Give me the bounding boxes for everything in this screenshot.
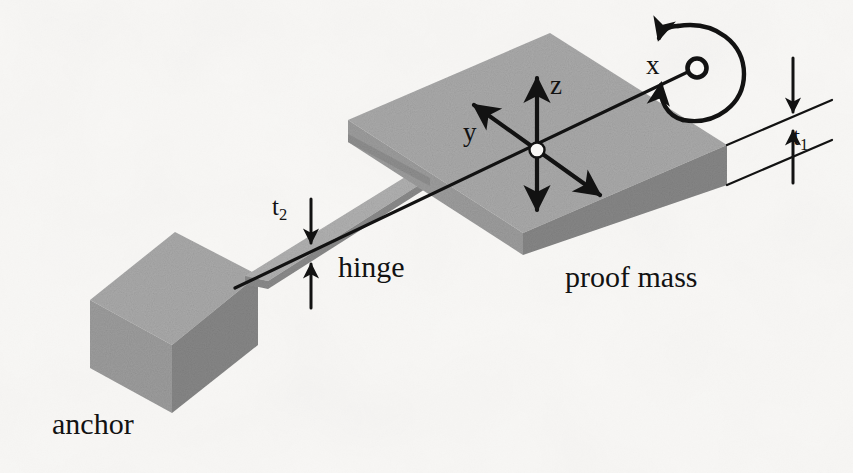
t1-label-base: t — [793, 123, 800, 150]
x-axis-tip-circle — [688, 59, 707, 78]
t1-label-subscript: 1 — [800, 135, 808, 154]
anchor-label: anchor — [52, 409, 134, 439]
x-axis-label: x — [646, 52, 660, 79]
t2-label: t2 — [272, 194, 287, 223]
y-axis-label: y — [463, 119, 477, 146]
diagram-scene — [0, 0, 853, 473]
t1-label: t1 — [793, 124, 808, 153]
t2-label-base: t — [272, 193, 279, 220]
z-axis-label: z — [550, 72, 562, 99]
rotation-arc-tail — [659, 26, 678, 38]
hinge-label: hinge — [338, 252, 405, 282]
t1-extension-upper — [727, 100, 832, 145]
t1-extension-lower — [727, 140, 832, 185]
figure-canvas: anchor hinge proof mass x y z t1 t2 — [0, 0, 853, 473]
anchor-block — [90, 232, 258, 413]
proof-mass-label: proof mass — [565, 262, 697, 292]
axes-origin-dot — [530, 143, 545, 158]
t2-label-subscript: 2 — [279, 205, 287, 224]
